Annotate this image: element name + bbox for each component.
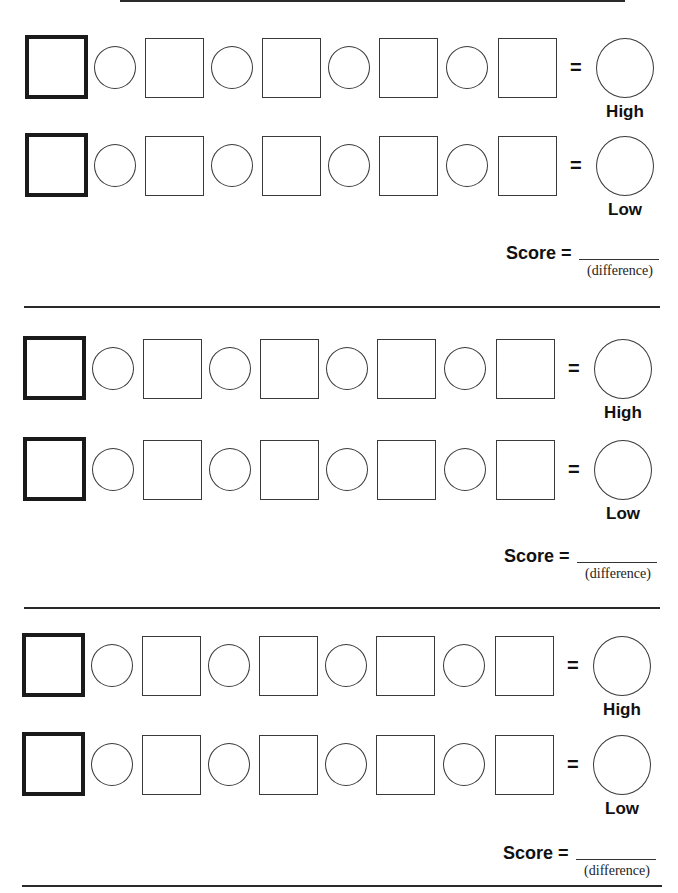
starting-number-box[interactable] <box>25 35 88 99</box>
low-label: Low <box>590 201 660 219</box>
equals-sign: = <box>570 57 582 77</box>
operator-circle[interactable] <box>443 743 485 786</box>
number-box[interactable] <box>145 38 204 98</box>
result-circle[interactable] <box>594 339 652 399</box>
high-label: High <box>590 103 660 121</box>
number-box[interactable] <box>379 136 438 196</box>
operator-circle[interactable] <box>209 448 251 491</box>
starting-number-box[interactable] <box>23 437 86 501</box>
section-divider <box>24 306 660 308</box>
number-box[interactable] <box>498 136 557 196</box>
starting-number-box[interactable] <box>22 732 85 796</box>
section-divider <box>22 885 662 887</box>
operator-circle[interactable] <box>444 448 486 491</box>
score-answer-blank[interactable] <box>579 259 659 260</box>
operator-circle[interactable] <box>91 644 133 687</box>
high-label: High <box>588 404 658 422</box>
operator-circle[interactable] <box>326 448 368 491</box>
score-label: Score = <box>506 243 572 263</box>
number-box[interactable] <box>262 136 321 196</box>
number-box[interactable] <box>260 339 319 399</box>
difference-caption: (difference) <box>575 263 665 279</box>
number-box[interactable] <box>495 636 554 696</box>
number-box[interactable] <box>376 735 435 795</box>
number-box[interactable] <box>498 38 557 98</box>
number-box[interactable] <box>145 136 204 196</box>
score-answer-blank[interactable] <box>577 562 657 563</box>
equals-sign: = <box>570 155 582 175</box>
operator-circle[interactable] <box>209 347 251 390</box>
number-box[interactable] <box>377 339 436 399</box>
starting-number-box[interactable] <box>23 336 86 400</box>
operator-circle[interactable] <box>328 144 370 187</box>
operator-circle[interactable] <box>444 347 486 390</box>
section-divider <box>120 0 625 2</box>
score-answer-blank[interactable] <box>576 859 656 860</box>
number-box[interactable] <box>260 440 319 500</box>
equals-sign: = <box>567 754 579 774</box>
operator-circle[interactable] <box>94 46 136 89</box>
number-box[interactable] <box>262 38 321 98</box>
starting-number-box[interactable] <box>25 133 88 197</box>
number-box[interactable] <box>496 440 555 500</box>
number-box[interactable] <box>142 636 201 696</box>
number-box[interactable] <box>376 636 435 696</box>
difference-caption: (difference) <box>572 863 662 879</box>
number-box[interactable] <box>143 339 202 399</box>
number-box[interactable] <box>496 339 555 399</box>
operator-circle[interactable] <box>91 743 133 786</box>
operator-circle[interactable] <box>94 144 136 187</box>
operator-circle[interactable] <box>92 347 134 390</box>
number-box[interactable] <box>495 735 554 795</box>
operator-circle[interactable] <box>443 644 485 687</box>
number-box[interactable] <box>142 735 201 795</box>
low-label: Low <box>588 505 658 523</box>
operator-circle[interactable] <box>211 144 253 187</box>
operator-circle[interactable] <box>208 644 250 687</box>
score-label: Score = <box>504 546 570 566</box>
result-circle[interactable] <box>594 440 652 500</box>
number-box[interactable] <box>379 38 438 98</box>
operator-circle[interactable] <box>328 46 370 89</box>
section-divider <box>24 607 660 609</box>
score-label: Score = <box>503 843 569 863</box>
operator-circle[interactable] <box>446 46 488 89</box>
operator-circle[interactable] <box>325 644 367 687</box>
equals-sign: = <box>568 459 580 479</box>
number-box[interactable] <box>143 440 202 500</box>
operator-circle[interactable] <box>326 347 368 390</box>
equals-sign: = <box>567 655 579 675</box>
operator-circle[interactable] <box>211 46 253 89</box>
result-circle[interactable] <box>593 735 651 795</box>
operator-circle[interactable] <box>446 144 488 187</box>
operator-circle[interactable] <box>325 743 367 786</box>
operator-circle[interactable] <box>208 743 250 786</box>
number-box[interactable] <box>259 735 318 795</box>
result-circle[interactable] <box>596 136 654 196</box>
low-label: Low <box>587 800 657 818</box>
number-box[interactable] <box>377 440 436 500</box>
starting-number-box[interactable] <box>22 633 85 697</box>
number-box[interactable] <box>259 636 318 696</box>
result-circle[interactable] <box>593 636 651 696</box>
equals-sign: = <box>568 358 580 378</box>
difference-caption: (difference) <box>573 566 663 582</box>
result-circle[interactable] <box>596 38 654 98</box>
operator-circle[interactable] <box>92 448 134 491</box>
high-label: High <box>587 701 657 719</box>
